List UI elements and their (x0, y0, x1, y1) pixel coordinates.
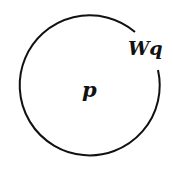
gap-label: Wq (128, 37, 163, 59)
center-label: p (82, 77, 97, 102)
